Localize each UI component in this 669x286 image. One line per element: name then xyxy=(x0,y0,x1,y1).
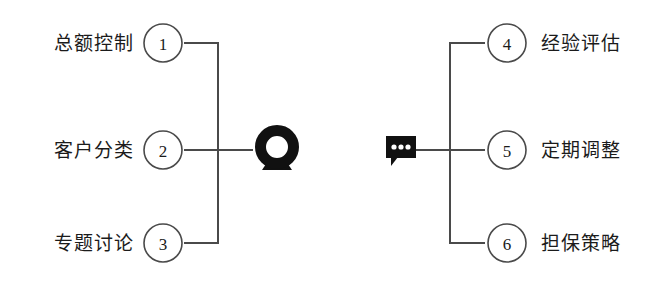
speech-bubble-icon-dot-2 xyxy=(398,144,403,149)
node-number-6: 6 xyxy=(503,236,512,253)
node-number-3: 3 xyxy=(159,236,168,253)
node-number-4: 4 xyxy=(503,36,512,53)
node-label-5: 定期调整 xyxy=(541,141,621,160)
node-number-1: 1 xyxy=(159,36,168,53)
speech-bubble-icon-dot-3 xyxy=(405,144,410,149)
left-group-connectors xyxy=(185,43,252,243)
node-label-1: 总额控制 xyxy=(54,34,134,53)
node-label-6: 担保策略 xyxy=(541,234,621,253)
speech-bubble-icon-dot-1 xyxy=(391,144,396,149)
node-label-2: 客户分类 xyxy=(54,141,134,160)
diagram-canvas: 1 2 3 4 5 6 总额控制 客户分类 专题讨论 经验评估 定期调整 担保策… xyxy=(0,0,669,286)
right-group-connectors xyxy=(416,43,484,243)
node-label-3: 专题讨论 xyxy=(54,234,134,253)
speech-bubble-ellipsis-icon xyxy=(386,136,416,166)
node-number-5: 5 xyxy=(503,143,512,160)
speech-bubble-icon-tail xyxy=(391,157,398,166)
node-label-4: 经验评估 xyxy=(541,34,621,53)
webcam-icon xyxy=(261,131,294,171)
node-number-2: 2 xyxy=(159,143,168,160)
webcam-icon-ring xyxy=(261,131,294,164)
